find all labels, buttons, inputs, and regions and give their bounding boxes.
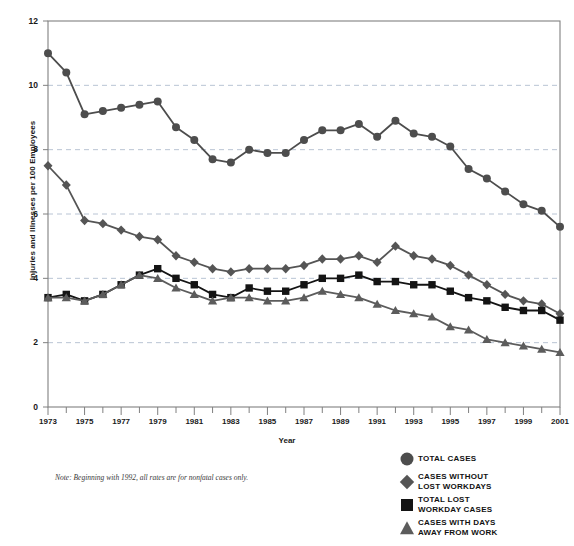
data-point-diamond [98, 219, 107, 228]
data-point-circle [245, 146, 253, 154]
circle-icon [396, 450, 418, 468]
data-point-diamond [80, 216, 89, 225]
data-point-circle [263, 149, 271, 157]
data-point-square [556, 316, 563, 323]
square-icon-shape [401, 499, 413, 511]
chart-note: Note: Beginning with 1992, all rates are… [55, 473, 248, 482]
data-point-circle [428, 133, 436, 141]
data-point-square [191, 281, 198, 288]
data-point-circle [391, 117, 399, 125]
legend-label: CASES WITHOUT LOST WORKDAYS [418, 472, 492, 491]
y-tick-label: 12 [8, 16, 38, 26]
data-point-circle [519, 200, 527, 208]
series-0 [44, 49, 564, 231]
x-tick-label: 1987 [284, 417, 324, 426]
data-point-diamond [245, 264, 254, 273]
x-tick-label: 1997 [467, 417, 507, 426]
x-tick-label: 1977 [101, 417, 141, 426]
data-point-square [300, 281, 307, 288]
data-point-square [428, 281, 435, 288]
data-point-circle [556, 223, 564, 231]
data-point-triangle [482, 335, 491, 343]
data-point-diamond [336, 254, 345, 263]
data-point-diamond [446, 261, 455, 270]
data-point-square [538, 307, 545, 314]
data-point-circle [465, 165, 473, 173]
data-point-circle [62, 68, 70, 76]
x-tick-label: 1995 [430, 417, 470, 426]
data-point-circle [209, 155, 217, 163]
data-point-diamond [482, 280, 491, 289]
y-tick-label: 2 [8, 337, 38, 347]
data-point-square [172, 275, 179, 282]
data-point-square [373, 278, 380, 285]
data-point-circle [117, 104, 125, 112]
data-point-circle [483, 175, 491, 183]
data-point-circle [99, 107, 107, 115]
data-point-square [319, 275, 326, 282]
data-point-square [465, 294, 472, 301]
data-point-diamond [519, 296, 528, 305]
legend-label: TOTAL CASES [418, 454, 476, 464]
x-tick-label: 1979 [138, 417, 178, 426]
y-tick-label: 4 [8, 273, 38, 283]
data-point-diamond [226, 267, 235, 276]
legend-label: CASES WITH DAYS AWAY FROM WORK [418, 518, 498, 537]
data-point-circle [337, 126, 345, 134]
x-tick-label: 1985 [247, 417, 287, 426]
data-point-square [447, 288, 454, 295]
data-point-circle [227, 159, 235, 167]
data-point-circle [446, 142, 454, 150]
data-point-square [483, 297, 490, 304]
data-point-square [154, 265, 161, 272]
data-point-circle [318, 126, 326, 134]
data-point-diamond [135, 232, 144, 241]
data-point-square [410, 281, 417, 288]
data-point-diamond [428, 254, 437, 263]
data-point-circle [355, 120, 363, 128]
legend-item: TOTAL CASES [396, 450, 574, 468]
data-point-square [245, 284, 252, 291]
data-point-circle [373, 133, 381, 141]
data-point-circle [190, 136, 198, 144]
x-tick-label: 1989 [321, 417, 361, 426]
data-point-circle [282, 149, 290, 157]
square-icon [396, 496, 418, 514]
x-tick-label: 1973 [28, 417, 68, 426]
triangle-icon-shape [400, 521, 414, 534]
data-point-circle [44, 49, 52, 57]
data-point-square [337, 275, 344, 282]
data-point-circle [154, 97, 162, 105]
y-tick-label: 10 [8, 80, 38, 90]
y-tick-label: 8 [8, 144, 38, 154]
data-point-circle [172, 123, 180, 131]
x-tick-label: 1975 [65, 417, 105, 426]
data-point-square [392, 278, 399, 285]
data-point-triangle [446, 322, 455, 330]
diamond-icon-shape [400, 474, 414, 488]
data-point-diamond [409, 251, 418, 260]
x-tick-label: 1981 [174, 417, 214, 426]
chart-legend: TOTAL CASESCASES WITHOUT LOST WORKDAYSTO… [396, 450, 574, 541]
y-tick-label: 6 [8, 209, 38, 219]
data-point-diamond [190, 258, 199, 267]
data-point-square [355, 271, 362, 278]
data-point-circle [410, 130, 418, 138]
legend-item: TOTAL LOST WORKDAY CASES [396, 495, 574, 514]
data-point-diamond [354, 251, 363, 260]
data-point-diamond [300, 261, 309, 270]
data-point-circle [501, 187, 509, 195]
data-point-square [264, 288, 271, 295]
legend-label: TOTAL LOST WORKDAY CASES [418, 495, 492, 514]
data-point-diamond [501, 290, 510, 299]
data-point-square [282, 288, 289, 295]
legend-item: CASES WITHOUT LOST WORKDAYS [396, 472, 574, 491]
x-tick-label: 1991 [357, 417, 397, 426]
data-point-square [520, 307, 527, 314]
y-tick-label: 0 [8, 402, 38, 412]
x-tick-label: 1983 [211, 417, 251, 426]
data-point-circle [135, 101, 143, 109]
x-tick-label: 1993 [394, 417, 434, 426]
plot-area [0, 0, 574, 440]
triangle-icon [396, 519, 418, 537]
